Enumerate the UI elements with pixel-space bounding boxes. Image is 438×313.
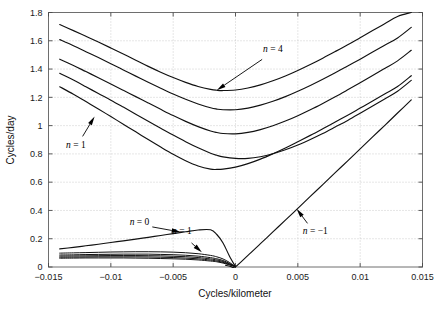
x-tick-label: 0.005 <box>287 272 310 282</box>
x-axis-title: Cycles/kilometer <box>198 288 272 299</box>
annotation-label-n-equals-4: n = 4 <box>263 44 283 54</box>
y-tick-label: 0.4 <box>30 206 43 216</box>
x-axis-tick-labels: −0.015−0.01−0.00500.0050.010.015 <box>35 272 434 282</box>
dispersion-curve-chart: 00.20.40.60.811.21.41.61.8 −0.015−0.01−0… <box>0 0 438 313</box>
x-tick-label: 0.015 <box>411 272 434 282</box>
y-tick-label: 0.6 <box>30 177 43 187</box>
y-tick-label: 0.2 <box>30 234 43 244</box>
y-tick-label: 1.2 <box>30 93 43 103</box>
annotation-label-n-equals-minus-1: n = −1 <box>303 226 328 236</box>
y-tick-label: 1.6 <box>30 36 43 46</box>
y-axis-title: Cycles/day <box>5 116 16 165</box>
x-tick-label: −0.01 <box>99 272 122 282</box>
y-tick-label: 1.4 <box>30 64 43 74</box>
figure-container: 00.20.40.60.811.21.41.61.8 −0.015−0.01−0… <box>0 0 438 313</box>
y-tick-label: 1 <box>37 121 42 131</box>
annotation-label-n-equals-1-upper: n = 1 <box>66 140 86 150</box>
x-tick-label: −0.015 <box>35 272 63 282</box>
y-axis-tick-labels: 00.20.40.60.811.21.41.61.8 <box>30 8 43 273</box>
y-tick-label: 1.8 <box>30 8 43 18</box>
annotation-label-n-equals-1-lower: n = 1 <box>172 226 192 236</box>
y-tick-label: 0 <box>37 262 42 272</box>
y-tick-label: 0.8 <box>30 149 43 159</box>
x-tick-label: 0.01 <box>351 272 369 282</box>
x-tick-label: −0.005 <box>159 272 187 282</box>
annotation-label-n-equals-0: n = 0 <box>130 217 150 227</box>
x-tick-label: 0 <box>233 272 238 282</box>
